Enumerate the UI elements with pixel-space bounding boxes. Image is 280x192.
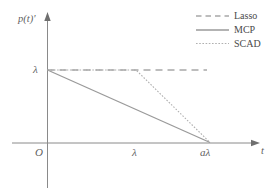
legend: Lasso MCP SCAD: [193, 8, 277, 50]
legend-label-lasso: Lasso: [234, 11, 257, 21]
legend-label-mcp: MCP: [234, 25, 255, 35]
y-tick-label-lambda: λ: [33, 64, 38, 75]
x-axis-arrow-icon: [251, 140, 260, 146]
series-line-mcp: [48, 70, 211, 143]
x-tick-label-origin: O: [35, 147, 43, 158]
y-axis-arrow-icon: [44, 12, 50, 21]
x-axis-title: t: [261, 146, 264, 157]
y-axis-title: p(t)': [18, 14, 35, 25]
legend-label-scad: SCAD: [234, 39, 261, 49]
chart-figure: p(t)' t O λ λ aλ Lasso MCP SCAD: [0, 0, 280, 192]
x-tick-label-lambda: λ: [132, 147, 137, 158]
x-tick-label-alambda: aλ: [200, 147, 210, 158]
